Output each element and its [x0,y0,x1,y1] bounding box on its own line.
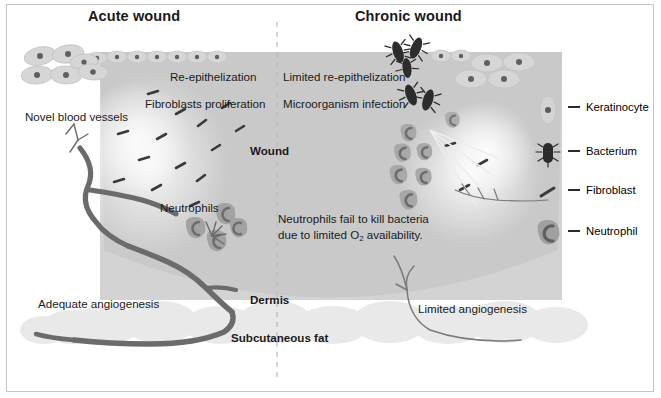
neutrophil-failure-line2: due to limited O2 availability. [278,228,423,243]
neutrophil-failure-line2-b: availability. [364,228,423,241]
legend-item-keratinocyte: Keratinocyte [562,101,649,113]
legend-label-fibroblast: Fibroblast [586,184,636,196]
legend-item-fibroblast: Fibroblast [562,184,636,196]
dermis-label: Dermis [250,293,289,306]
legend-label-keratinocyte: Keratinocyte [586,101,649,113]
neutrophil-failure-line1: Neutrophils fail to kill bacteria [278,212,429,225]
limited-angiogenesis-label: Limited angiogenesis [418,302,527,315]
legend-label-neutrophil: Neutrophil [586,225,638,237]
subcutaneous-fat-label: Subcutaneous fat [231,331,328,344]
adequate-angiogenesis-label: Adequate angiogenesis [38,297,159,310]
legend-dash-icon [568,230,580,231]
keratinocyte-icon [540,96,556,124]
chronic-wound-title: Chronic wound [355,8,462,25]
wound-label: Wound [250,144,289,157]
legend-dash-icon [568,150,580,151]
acute-neutrophils-label: Neutrophils [160,201,219,214]
neutrophil-failure-line2-a: due to limited O [278,228,359,241]
acute-fibroblasts-label: Fibroblasts proliferation [145,97,266,110]
chronic-infection-label: Microorganism infection [283,97,405,110]
legend-dash-icon [568,189,580,190]
novel-blood-vessels-label: Novel blood vessels [25,110,128,123]
legend-dash-icon [568,106,580,107]
legend-item-bacterium: Bacterium [562,145,637,157]
legend-label-bacterium: Bacterium [586,145,637,157]
legend-item-neutrophil: Neutrophil [562,225,638,237]
wound-healing-figure: Acute wound Chronic wound Re-epithelizat… [0,0,661,398]
acute-reepithelization-label: Re-epithelization [170,70,256,83]
chronic-reepithelization-label: Limited re-epithelization [283,70,405,83]
acute-wound-title: Acute wound [88,8,180,25]
diagram-canvas [0,0,661,398]
